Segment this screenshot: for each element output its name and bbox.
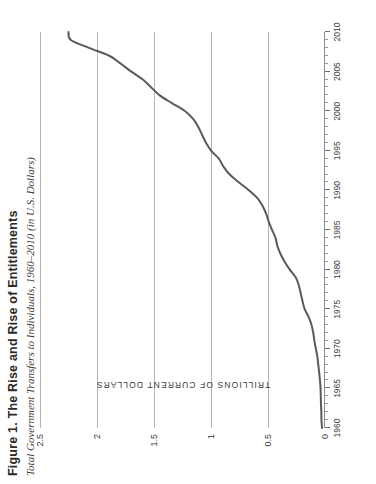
y-tick-label: 2.5 — [35, 434, 45, 447]
x-minor-tick — [325, 79, 328, 80]
x-minor-tick — [325, 181, 328, 182]
x-minor-tick — [325, 158, 328, 159]
x-minor-tick — [325, 324, 328, 325]
x-major-tick — [325, 31, 330, 32]
x-major-tick — [325, 348, 330, 349]
x-minor-tick — [325, 411, 328, 412]
x-minor-tick — [325, 205, 328, 206]
x-tick-label: 1975 — [332, 300, 342, 319]
x-major-tick — [325, 229, 330, 230]
data-line-chart — [40, 32, 325, 428]
x-minor-tick — [325, 300, 328, 301]
x-axis: 1960196519701975198019851990199520002005… — [325, 32, 365, 428]
x-minor-tick — [325, 284, 328, 285]
x-minor-tick — [325, 356, 328, 357]
x-major-tick — [325, 308, 330, 309]
rotated-figure-container: Figure 1. The Rise and Rise of Entitleme… — [0, 0, 376, 484]
x-minor-tick — [325, 197, 328, 198]
x-tick-label: 2000 — [332, 102, 342, 121]
x-minor-tick — [325, 213, 328, 214]
x-minor-tick — [325, 364, 328, 365]
x-minor-tick — [325, 86, 328, 87]
x-major-tick — [325, 189, 330, 190]
x-minor-tick — [325, 340, 328, 341]
x-minor-tick — [325, 379, 328, 380]
x-minor-tick — [325, 419, 328, 420]
x-major-tick — [325, 269, 330, 270]
figure-subtitle: Total Government Transfers to Individual… — [24, 16, 36, 476]
figure-page: Figure 1. The Rise and Rise of Entitleme… — [0, 0, 376, 484]
x-minor-tick — [325, 332, 328, 333]
x-minor-tick — [325, 102, 328, 103]
x-tick-label: 2010 — [332, 23, 342, 42]
y-tick-label: 2 — [92, 434, 102, 439]
x-minor-tick — [325, 372, 328, 373]
x-minor-tick — [325, 277, 328, 278]
x-minor-tick — [325, 395, 328, 396]
x-tick-label: 1970 — [332, 339, 342, 358]
x-minor-tick — [325, 134, 328, 135]
x-minor-tick — [325, 316, 328, 317]
x-minor-tick — [325, 403, 328, 404]
x-minor-tick — [325, 118, 328, 119]
x-minor-tick — [325, 39, 328, 40]
figure-title: Figure 1. The Rise and Rise of Entitleme… — [6, 16, 20, 476]
x-major-tick — [325, 150, 330, 151]
x-minor-tick — [325, 166, 328, 167]
x-minor-tick — [325, 142, 328, 143]
series-line-total-transfers — [68, 32, 322, 428]
y-axis-title: TRILLIONS OF CURRENT DOLLARS — [95, 380, 270, 390]
y-tick-label: 0 — [320, 434, 330, 439]
x-major-tick — [325, 71, 330, 72]
y-tick-label: 1 — [206, 434, 216, 439]
x-minor-tick — [325, 126, 328, 127]
x-major-tick — [325, 110, 330, 111]
x-tick-label: 1985 — [332, 221, 342, 240]
x-minor-tick — [325, 261, 328, 262]
x-major-tick — [325, 427, 330, 428]
x-minor-tick — [325, 221, 328, 222]
y-tick-label: 1.5 — [149, 434, 159, 447]
x-minor-tick — [325, 174, 328, 175]
x-tick-label: 1965 — [332, 379, 342, 398]
x-minor-tick — [325, 94, 328, 95]
x-minor-tick — [325, 47, 328, 48]
x-tick-label: 1995 — [332, 141, 342, 160]
x-minor-tick — [325, 55, 328, 56]
x-tick-label: 1990 — [332, 181, 342, 200]
x-major-tick — [325, 387, 330, 388]
x-minor-tick — [325, 253, 328, 254]
x-tick-label: 2005 — [332, 62, 342, 81]
x-minor-tick — [325, 237, 328, 238]
x-minor-tick — [325, 63, 328, 64]
x-minor-tick — [325, 245, 328, 246]
x-tick-label: 1980 — [332, 260, 342, 279]
y-tick-label: 0.5 — [263, 434, 273, 447]
title-block: Figure 1. The Rise and Rise of Entitleme… — [6, 16, 36, 476]
plot-area: TRILLIONS OF CURRENT DOLLARS 00.511.522.… — [40, 32, 325, 428]
x-tick-label: 1960 — [332, 419, 342, 438]
x-minor-tick — [325, 292, 328, 293]
